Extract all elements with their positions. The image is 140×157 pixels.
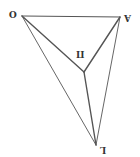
vertex-label-o: O — [9, 9, 17, 18]
edge-o-a — [22, 16, 120, 17]
vertex-label-l: L — [100, 145, 106, 154]
vertex-label-a: A — [124, 13, 131, 22]
edge-o-p — [22, 16, 84, 72]
diagram-canvas: O A П L — [0, 0, 140, 157]
vertex-label-p: П — [76, 49, 85, 58]
triangle-figure — [0, 0, 140, 157]
